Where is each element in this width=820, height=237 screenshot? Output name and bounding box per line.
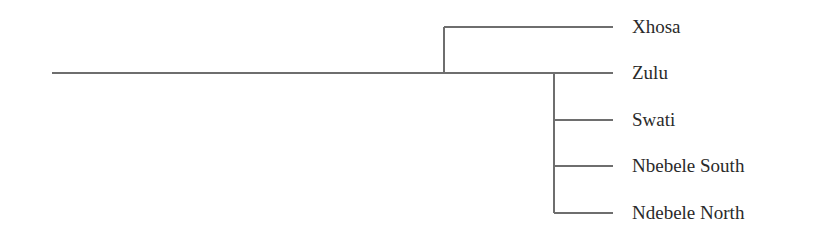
leaf-label-ndebele-north: Ndebele North <box>632 203 744 222</box>
leaf-label-xhosa: Xhosa <box>632 17 681 36</box>
leaf-label-swati: Swati <box>632 110 675 129</box>
leaf-label-zulu: Zulu <box>632 63 668 82</box>
tree-diagram: Xhosa Zulu Swati Nbebele South Ndebele N… <box>0 0 820 237</box>
leaf-label-nbebele-south: Nbebele South <box>632 156 744 175</box>
